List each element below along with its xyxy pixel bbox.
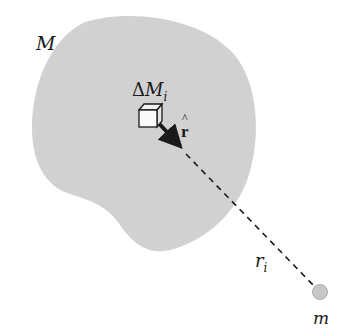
mass-element-cube-icon [139, 104, 162, 127]
mass-element-label: ΔMi [132, 79, 167, 100]
distance-subscript: i [264, 261, 268, 275]
unit-vector-label: ^ r [181, 122, 189, 142]
point-mass-circle [313, 285, 328, 300]
delta-symbol: Δ [132, 79, 145, 100]
mass-element-main: M [145, 79, 163, 100]
mass-element-subscript: i [163, 90, 167, 104]
mass-body-blob [32, 16, 256, 251]
distance-main: r [255, 250, 264, 271]
hat-symbol: ^ [182, 111, 188, 126]
point-mass-label: m [313, 308, 329, 328]
distance-label: ri [255, 250, 267, 271]
body-label-M: M [36, 32, 55, 54]
